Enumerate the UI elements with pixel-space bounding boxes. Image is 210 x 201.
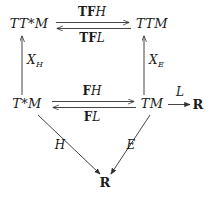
edge-label-XE: XE bbox=[149, 54, 163, 66]
edge-label-XE-subscript: E bbox=[158, 60, 164, 69]
edge-label-XE-main: X bbox=[149, 53, 158, 67]
node-TM: TM bbox=[141, 97, 164, 110]
edge-label-XH: XH bbox=[27, 54, 43, 66]
edge-label-TFL-italic: L bbox=[97, 31, 105, 45]
edge-label-FL: FL bbox=[84, 111, 101, 123]
edge-label-FL-bold: F bbox=[84, 110, 93, 124]
edge-label-FH-bold: F bbox=[83, 84, 92, 98]
node-R-bottom: R bbox=[99, 176, 110, 189]
edge-label-XH-subscript: H bbox=[36, 60, 43, 69]
edge-label-TFL-bold: TF bbox=[79, 31, 96, 45]
edge-label-TFL: TFL bbox=[79, 32, 104, 44]
edge-label-TFH: TFH bbox=[78, 6, 106, 18]
node-TstarM: T*M bbox=[12, 97, 41, 110]
edge-label-E: E bbox=[127, 139, 136, 151]
edge-label-FH-italic: H bbox=[91, 84, 101, 98]
node-R-right: R bbox=[192, 98, 203, 111]
edge-label-TFH-italic: H bbox=[95, 5, 105, 19]
node-TTstarM: TT*M bbox=[10, 17, 49, 30]
edge-label-FL-italic: L bbox=[92, 110, 100, 124]
edge-label-FH: FH bbox=[83, 85, 102, 97]
edge-label-H: H bbox=[55, 139, 65, 151]
commutative-diagram: TT*M TTM T*M TM R R TFH TFL XH XE FH FL … bbox=[0, 0, 210, 201]
edge-label-L: L bbox=[176, 86, 184, 98]
edge-label-XH-main: X bbox=[27, 53, 36, 67]
node-TTM: TTM bbox=[136, 17, 168, 30]
edge-label-TFH-bold: TF bbox=[78, 5, 95, 19]
